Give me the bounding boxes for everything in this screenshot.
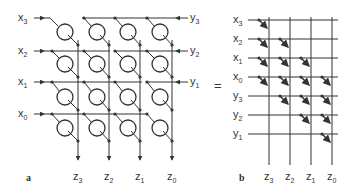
junction-dot xyxy=(138,108,141,111)
junction-dot xyxy=(107,108,110,111)
switch-arrow xyxy=(322,115,330,123)
input-label-x0: x0 xyxy=(18,107,28,121)
input-label-x2: x2 xyxy=(18,44,28,58)
cell-output-diag xyxy=(100,131,109,141)
junction-dot xyxy=(138,75,141,78)
switch-arrow xyxy=(280,77,288,85)
row-label-x0: x0 xyxy=(233,70,243,84)
switch-arrow xyxy=(280,58,288,66)
cell-output-diag xyxy=(131,35,140,45)
diagram-canvas: x3x2x1x0y3y2y1z3z2z1z0 x3x2x1x0y3y2y1z3z… xyxy=(0,0,355,191)
cell-input-diag xyxy=(52,51,60,59)
junction-dot xyxy=(170,139,173,142)
row-label-x3: x3 xyxy=(233,13,243,27)
switch-arrow xyxy=(322,134,330,142)
junction-dot xyxy=(82,49,85,52)
panel-a: x3x2x1x0y3y2y1z3z2z1z0 xyxy=(18,11,200,184)
row-label-x2: x2 xyxy=(233,32,243,46)
row-label-x1: x1 xyxy=(233,51,243,65)
junction-dot xyxy=(170,75,173,78)
column-label-z1: z1 xyxy=(306,170,316,184)
switch-arrow xyxy=(259,58,267,66)
output-label-z1: z1 xyxy=(135,170,145,184)
switch-arrow xyxy=(322,77,330,85)
switch-arrow xyxy=(322,96,330,104)
junction-dot xyxy=(107,75,110,78)
junction-dot xyxy=(113,16,116,19)
junction-dot xyxy=(113,49,116,52)
junction-dot xyxy=(145,16,148,19)
cell-input-diag xyxy=(147,51,155,59)
cell-input-diag xyxy=(84,82,92,92)
cell-output-diag xyxy=(100,35,109,45)
cell-output-diag xyxy=(163,67,172,77)
cell-output-diag xyxy=(163,131,172,141)
switch-arrow xyxy=(301,115,309,123)
crossbar-diagram: x3x2x1x0y3y2y1z3z2z1z0 x3x2x1x0y3y2y1z3z… xyxy=(0,0,355,191)
cell-input-diag xyxy=(147,114,155,123)
cell-output-diag xyxy=(163,35,172,45)
junction-dot xyxy=(50,80,53,83)
cell-input-diag xyxy=(84,114,92,123)
panel-b: x3x2x1x0y3y2y1z3z2z1z0 xyxy=(233,13,338,184)
switch-arrow xyxy=(259,77,267,85)
junction-dot xyxy=(76,43,79,46)
input-label-x3: x3 xyxy=(18,11,28,25)
junction-dot xyxy=(76,75,79,78)
junction-dot xyxy=(113,112,116,115)
junction-dot xyxy=(170,108,173,111)
junction-dot xyxy=(145,49,148,52)
cell-input-diag xyxy=(115,51,123,59)
bus-x3-diag xyxy=(50,18,58,26)
junction-dot xyxy=(82,16,85,19)
junction-dot xyxy=(107,139,110,142)
junction-dot xyxy=(138,139,141,142)
switch-arrow xyxy=(259,39,267,47)
cell-input-diag xyxy=(84,18,92,27)
junction-dot xyxy=(82,80,85,83)
equals-sign: = xyxy=(214,78,222,93)
input-label-y2: y2 xyxy=(190,44,200,58)
junction-dot xyxy=(107,43,110,46)
cell-output-diag xyxy=(131,67,140,77)
panel-b-label: b xyxy=(239,172,245,183)
panel-a-label: a xyxy=(26,172,31,183)
input-label-y3: y3 xyxy=(190,11,200,25)
cell-input-diag xyxy=(147,82,155,92)
junction-dot xyxy=(50,112,53,115)
column-label-z0: z0 xyxy=(327,170,337,184)
cell-input-diag xyxy=(115,18,123,27)
cell-output-diag xyxy=(68,67,78,77)
output-label-z3: z3 xyxy=(73,170,83,184)
junction-dot xyxy=(145,80,148,83)
switch-arrow xyxy=(259,20,267,28)
column-label-z2: z2 xyxy=(285,170,295,184)
cell-output-diag xyxy=(68,35,78,45)
junction-dot xyxy=(50,49,53,52)
cell-input-diag xyxy=(52,114,60,123)
input-label-y1: y1 xyxy=(190,75,200,89)
cell-output-diag xyxy=(131,100,140,110)
junction-dot xyxy=(113,80,116,83)
cell-input-diag xyxy=(84,51,92,59)
input-label-x1: x1 xyxy=(18,75,28,89)
cell-input-diag xyxy=(115,114,123,123)
junction-dot xyxy=(138,43,141,46)
row-label-y2: y2 xyxy=(233,108,243,122)
output-label-z0: z0 xyxy=(167,170,177,184)
switch-arrow xyxy=(280,96,288,104)
switch-arrow xyxy=(280,39,288,47)
row-label-y3: y3 xyxy=(233,89,243,103)
output-label-z2: z2 xyxy=(104,170,114,184)
column-label-z3: z3 xyxy=(264,170,274,184)
junction-dot xyxy=(76,108,79,111)
cell-output-diag xyxy=(100,100,109,110)
switch-arrow xyxy=(301,96,309,104)
cell-input-diag xyxy=(147,18,155,27)
junction-dot xyxy=(76,139,79,142)
cell-output-diag xyxy=(68,131,78,141)
cell-output-diag xyxy=(100,67,109,77)
cell-input-diag xyxy=(52,82,60,92)
junction-dot xyxy=(170,43,173,46)
cell-output-diag xyxy=(131,131,140,141)
